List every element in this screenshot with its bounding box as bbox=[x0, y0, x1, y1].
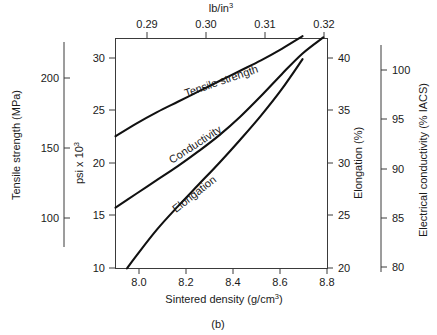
cond-ticklabel-100: 100 bbox=[392, 64, 410, 76]
elong-ticklabel-25: 25 bbox=[338, 209, 350, 221]
curve-label-conductivity: Conductivity bbox=[167, 123, 224, 166]
cond-ticklabel-85: 85 bbox=[392, 212, 404, 224]
figure-container: 200 150 100 Tensile strength (MPa) 0.29 … bbox=[0, 0, 437, 335]
elong-ticklabel-20: 20 bbox=[338, 262, 350, 274]
tensile-ticklabel-150: 150 bbox=[41, 142, 59, 154]
psi-axis-title-sup: 3 bbox=[72, 142, 81, 146]
x-ticklabel-86: 8.6 bbox=[272, 276, 287, 288]
top-axis-title-text: lb/in bbox=[209, 2, 229, 14]
axis-lb-per-in3: 0.29 0.30 0.31 0.32 lb/in3 bbox=[136, 1, 334, 38]
tensile-axis-title: Tensile strength (MPa) bbox=[10, 90, 22, 200]
elong-ticklabel-40: 40 bbox=[338, 52, 350, 64]
x-axis-title-text: Sintered density (g/cm bbox=[165, 293, 274, 305]
x-ticklabel-80: 8.0 bbox=[131, 276, 146, 288]
curve-labels: Tensile strength Conductivity Elongation bbox=[167, 62, 260, 214]
x-ticklabel-84: 8.4 bbox=[225, 276, 240, 288]
axis-sintered-density: 8.0 8.2 8.4 8.6 8.8 Sintered density (g/… bbox=[131, 268, 334, 305]
x-axis-title: Sintered density (g/cm3) bbox=[165, 292, 282, 305]
figure-caption: (b) bbox=[211, 318, 224, 330]
cond-ticklabel-80: 80 bbox=[392, 261, 404, 273]
psi-ticklabel-10: 10 bbox=[93, 262, 105, 274]
axis-electrical-conductivity: 100 95 90 85 80 Electrical conductivity … bbox=[381, 45, 429, 273]
x-axis-title-tail: ) bbox=[279, 293, 283, 305]
cond-ticklabel-95: 95 bbox=[392, 113, 404, 125]
psi-ticklabel-20: 20 bbox=[93, 157, 105, 169]
curve-elongation bbox=[127, 59, 303, 268]
top-ticklabel-031: 0.31 bbox=[254, 18, 275, 30]
psi-ticklabel-15: 15 bbox=[93, 209, 105, 221]
tensile-ticklabel-100: 100 bbox=[41, 212, 59, 224]
plot-frame bbox=[116, 39, 328, 269]
x-ticklabel-88: 8.8 bbox=[319, 276, 334, 288]
data-curves bbox=[116, 36, 324, 268]
conductivity-axis-title: Electrical conductivity (% IACS) bbox=[417, 83, 429, 237]
top-ticklabel-030: 0.30 bbox=[195, 18, 216, 30]
curve-label-elongation: Elongation bbox=[170, 173, 218, 214]
cond-ticklabel-90: 90 bbox=[392, 163, 404, 175]
elong-axis-title: Elongation (%) bbox=[352, 127, 364, 199]
psi-ticklabel-25: 25 bbox=[93, 104, 105, 116]
curve-conductivity bbox=[116, 37, 324, 207]
elong-ticklabel-30: 30 bbox=[338, 157, 350, 169]
axis-psi: 30 25 20 15 10 psi x 103 bbox=[72, 52, 115, 274]
tensile-ticklabel-200: 200 bbox=[41, 72, 59, 84]
axis-elongation: 40 35 30 25 20 Elongation (%) bbox=[327, 52, 364, 274]
top-axis-title: lb/in3 bbox=[209, 1, 233, 14]
chart-svg: 200 150 100 Tensile strength (MPa) 0.29 … bbox=[0, 0, 437, 335]
top-ticklabel-029: 0.29 bbox=[136, 18, 157, 30]
elong-ticklabel-35: 35 bbox=[338, 104, 350, 116]
x-ticklabel-82: 8.2 bbox=[178, 276, 193, 288]
top-ticklabel-032: 0.32 bbox=[313, 18, 334, 30]
top-axis-title-sup: 3 bbox=[229, 1, 233, 10]
psi-axis-title: psi x 103 bbox=[72, 142, 85, 184]
axis-tensile-strength-mpa: 200 150 100 Tensile strength (MPa) bbox=[10, 42, 70, 247]
psi-ticklabel-30: 30 bbox=[93, 52, 105, 64]
curve-label-tensile-strength: Tensile strength bbox=[183, 62, 260, 98]
psi-axis-title-text: psi x 10 bbox=[73, 146, 85, 184]
